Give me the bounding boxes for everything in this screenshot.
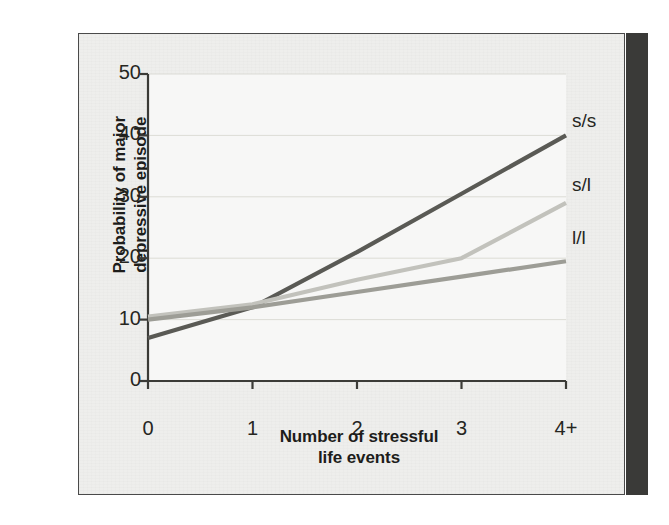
y-tick-label: 50: [101, 61, 141, 84]
y-tick-label: 40: [101, 122, 141, 145]
series-label-l-l: l/l: [572, 227, 586, 249]
figure-root: Probability of major depressive episode …: [0, 0, 669, 525]
x-axis-title-line-2: life events: [149, 447, 569, 468]
y-tick-label: 0: [101, 368, 141, 391]
scan-gutter-bar: [626, 33, 648, 495]
series-label-s-s: s/s: [572, 110, 596, 132]
y-tick-label: 10: [101, 307, 141, 330]
plot-svg: [148, 74, 566, 381]
plot-area: [148, 74, 566, 381]
x-axis-title-line-1: Number of stressful: [149, 426, 569, 447]
series-line-s-l: [148, 203, 566, 317]
x-axis-title: Number of stressful life events: [149, 426, 569, 469]
figure-panel: Probability of major depressive episode …: [78, 33, 625, 495]
y-axis-tick-labels: 01020304050: [91, 74, 141, 381]
y-tick-label: 20: [101, 245, 141, 268]
series-label-s-l: s/l: [572, 174, 591, 196]
series-line-l-l: [148, 261, 566, 319]
y-tick-label: 30: [101, 184, 141, 207]
